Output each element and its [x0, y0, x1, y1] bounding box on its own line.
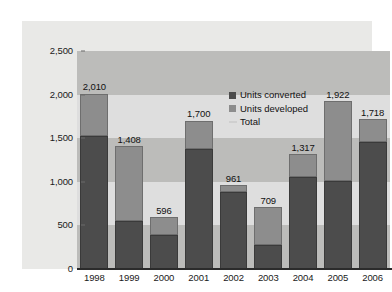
x-axis-labels: 199819992000200120022003200420052006 [77, 273, 390, 289]
bar-column[interactable]: 961 [220, 185, 248, 269]
y-axis-tick-mark [81, 94, 85, 95]
bar-total-label: 596 [156, 206, 172, 216]
x-axis-tick-label: 2006 [362, 273, 383, 283]
legend-item-label: Units converted [240, 90, 306, 100]
legend-line-swatch-icon [229, 121, 237, 124]
bar-total-label: 709 [260, 196, 276, 206]
x-axis-tick-label: 1999 [119, 273, 140, 283]
bar-segment-units-developed[interactable] [254, 207, 282, 245]
x-axis-tick-label: 2004 [293, 273, 314, 283]
chart-panel: 2,0101,4085961,7009617091,3171,9221,718 … [22, 21, 372, 269]
y-axis-tick-label: 2,000 [37, 90, 73, 100]
bar-column[interactable]: 596 [150, 217, 178, 269]
x-axis-tick-label: 2002 [223, 273, 244, 283]
y-axis-tick-label: 1,500 [37, 133, 73, 143]
bar-segment-units-converted[interactable] [289, 177, 317, 269]
x-axis-tick-label: 2000 [154, 273, 175, 283]
bar-total-label: 1,408 [118, 135, 141, 145]
y-axis-tick-mark [81, 138, 85, 139]
bar-column[interactable]: 1,922 [324, 101, 352, 269]
bar-total-label: 1,700 [187, 109, 210, 119]
y-axis-tick-label: 1,000 [37, 177, 73, 187]
bar-segment-units-converted[interactable] [80, 136, 108, 269]
bar-segment-units-converted[interactable] [150, 235, 178, 269]
bar-segment-units-converted[interactable] [115, 221, 143, 269]
bar-column[interactable]: 1,718 [359, 119, 387, 269]
plot-area: 2,0101,4085961,7009617091,3171,9221,718 … [77, 51, 390, 269]
bar-total-label: 1,718 [361, 108, 384, 118]
bar-total-label: 1,317 [291, 143, 314, 153]
y-axis-tick-label: 0 [37, 264, 73, 274]
y-axis-tick-mark [81, 181, 85, 182]
y-axis-tick-label: 2,500 [37, 46, 73, 56]
x-axis-tick-label: 2001 [188, 273, 209, 283]
bar-segment-units-developed[interactable] [185, 121, 213, 149]
bar-total-label: 961 [226, 174, 242, 184]
bar-column[interactable]: 709 [254, 207, 282, 269]
x-axis-tick-label: 2003 [258, 273, 279, 283]
y-axis-labels: 05001,0001,5002,0002,500 [30, 51, 73, 269]
bar-segment-units-converted[interactable] [359, 142, 387, 269]
y-axis-tick-mark [81, 225, 85, 226]
legend-item-label: Total [240, 117, 260, 127]
bar-segment-units-converted[interactable] [220, 192, 248, 269]
bar-segment-units-converted[interactable] [185, 149, 213, 269]
bar-segment-units-developed[interactable] [115, 146, 143, 221]
bar-series-layer: 2,0101,4085961,7009617091,3171,9221,718 [77, 51, 390, 269]
bar-column[interactable]: 1,408 [115, 146, 143, 269]
bar-segment-units-developed[interactable] [324, 101, 352, 181]
bar-total-label: 1,922 [326, 90, 349, 100]
bar-segment-units-developed[interactable] [80, 94, 108, 137]
legend-square-swatch-icon [229, 105, 236, 112]
x-axis-line [77, 268, 392, 270]
bar-segment-units-converted[interactable] [254, 245, 282, 269]
bar-segment-units-developed[interactable] [150, 217, 178, 235]
x-axis-tick-label: 1998 [84, 273, 105, 283]
legend-item[interactable]: Units converted [229, 90, 325, 100]
bar-segment-units-developed[interactable] [289, 154, 317, 177]
legend-item[interactable]: Total [229, 117, 325, 127]
bar-segment-units-developed[interactable] [359, 119, 387, 141]
legend-square-swatch-icon [229, 92, 236, 99]
chart-legend: Units convertedUnits developedTotal [229, 90, 325, 131]
y-axis-tick-mark [81, 51, 85, 52]
bar-total-label: 2,010 [83, 82, 106, 92]
bar-segment-units-converted[interactable] [324, 181, 352, 269]
legend-item[interactable]: Units developed [229, 104, 325, 114]
bar-column[interactable]: 1,700 [185, 121, 213, 269]
bar-column[interactable]: 1,317 [289, 154, 317, 269]
x-axis-tick-label: 2005 [327, 273, 348, 283]
bar-segment-units-developed[interactable] [220, 185, 248, 192]
legend-item-label: Units developed [240, 104, 308, 114]
y-axis-tick-label: 500 [37, 221, 73, 231]
